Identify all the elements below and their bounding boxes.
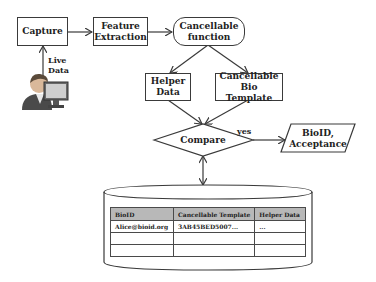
table-header-row: BioID Cancellable Template Helper Data [111,208,306,221]
compare-label: Compare [180,135,225,146]
cancellable-bio-template-line2: Bio Template [216,82,282,104]
edge-helper-to-compare [168,100,202,124]
edge-function-to-template [208,45,248,73]
feature-extraction-line2: Extraction [94,32,147,43]
database-table: BioID Cancellable Template Helper Data A… [110,207,306,257]
column-header-cancellable-template: Cancellable Template [174,208,255,221]
yes-label: yes [237,126,251,136]
table-row [111,245,306,257]
cancellable-bio-template-line1: Cancellable [220,71,279,82]
cancellable-bio-template-node: Cancellable Bio Template [215,73,283,101]
cell-helper-data: ... [255,221,306,233]
cell-cancellable-template [174,245,255,257]
live-data-line1: Live [48,55,69,65]
output-line2: Acceptance [289,139,347,150]
user-at-computer-icon [18,70,70,110]
cell-helper-data [255,245,306,257]
edge-template-to-compare [205,100,248,124]
cell-cancellable-template: 3AB45BED5007... [174,221,255,233]
cancellable-function-node: Cancellable function [173,17,245,46]
column-header-helper-data: Helper Data [255,208,306,221]
edge-function-to-helper [170,45,208,73]
capture-node: Capture [17,17,68,46]
output-node: BioID, Acceptance [284,125,352,152]
cell-bioid [111,233,174,245]
helper-data-node: Helper Data [145,73,191,101]
cancellable-function-line2: function [188,32,231,43]
feature-extraction-line1: Feature [101,21,140,32]
helper-data-line1: Helper [151,76,185,87]
cell-bioid: Alice@bioid.org [111,221,174,233]
capture-label: Capture [22,26,62,37]
cell-helper-data [255,233,306,245]
column-header-bioid: BioID [111,208,174,221]
table-row [111,233,306,245]
table-row: Alice@bioid.org 3AB45BED5007... ... [111,221,306,233]
cell-cancellable-template [174,233,255,245]
helper-data-line2: Data [156,87,180,98]
feature-extraction-node: Feature Extraction [93,17,148,46]
output-line1: BioID, [302,128,334,139]
compare-node: Compare [170,132,236,148]
cancellable-function-line1: Cancellable [180,21,239,32]
cell-bioid [111,245,174,257]
